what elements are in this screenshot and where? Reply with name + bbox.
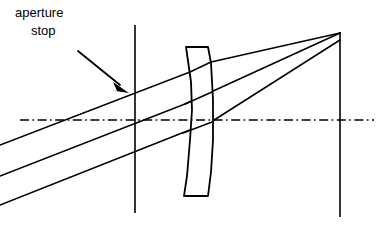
ray-lower [0,40,340,205]
figure-canvas: aperture stop [0,0,380,231]
aperture-label: aperture [15,5,63,20]
optical-ray-diagram: aperture stop [0,0,380,231]
arrow-shaft [78,51,120,85]
ray-middle [0,33,340,176]
meniscus-lens [184,47,213,196]
stop-label: stop [31,23,56,38]
ray-upper [0,33,340,145]
aperture-stop-pointer-arrow [78,51,129,93]
